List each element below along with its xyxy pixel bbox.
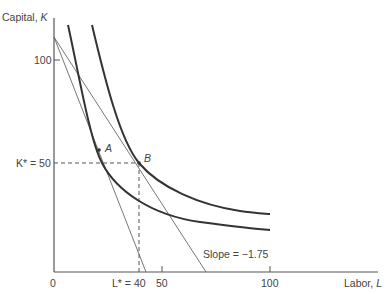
point-a-marker (97, 148, 101, 152)
y-axis-label-var: K (41, 11, 48, 23)
y-tick-label-kstar: K* = 50 (16, 158, 51, 169)
x-axis-label: Labor, L (344, 278, 382, 289)
x-axis-label-text: Labor, (344, 277, 376, 289)
point-b-marker (137, 161, 141, 165)
x-tick-label-0: 0 (50, 278, 56, 289)
chart-canvas (0, 0, 391, 294)
point-a-label: A (105, 143, 112, 154)
point-b-label: B (144, 153, 151, 164)
x-tick-label-100: 100 (261, 278, 279, 289)
x-tick-label-50: 50 (156, 278, 168, 289)
slope-annotation: Slope = −1.75 (203, 249, 268, 260)
isocost-slope-line (54, 37, 206, 272)
y-tick-label-100: 100 (34, 55, 52, 66)
y-axis-label: Capital, K (2, 12, 48, 23)
x-tick-label-lstar: L* = 40 (112, 278, 146, 289)
isoquant-lower-curve (68, 25, 270, 230)
y-axis-label-text: Capital, (2, 11, 41, 23)
x-axis-label-var: L (376, 277, 382, 289)
